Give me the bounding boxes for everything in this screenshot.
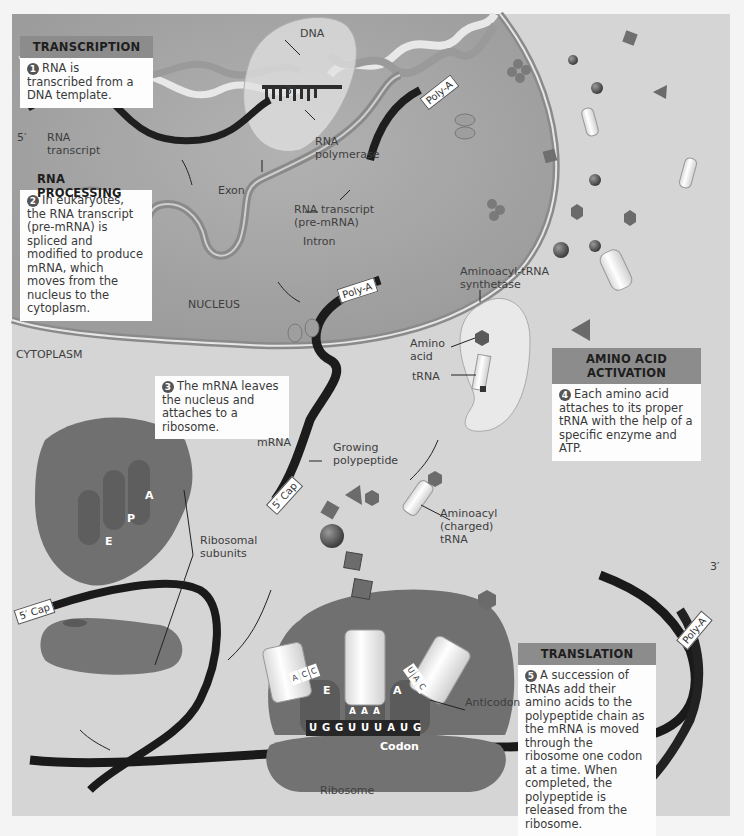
step-1-title: TRANSCRIPTION — [20, 36, 153, 58]
large-ribosomal-subunit — [35, 418, 192, 586]
five-prime-label: 5′ — [17, 131, 27, 144]
site-a-label-subunit: A — [145, 489, 154, 502]
mrna-base: G — [333, 721, 345, 734]
mrna-base: G — [320, 721, 332, 734]
three-prime-top-label: 3′ — [285, 84, 295, 97]
mrna-sequence: U G G U U U A U G — [307, 721, 423, 734]
aminoacyl-charged-trna-label: Aminoacyl (charged) tRNA — [440, 507, 497, 546]
mrna-base: U — [372, 721, 384, 734]
site-e-label-ribosome: E — [323, 684, 331, 697]
amino-acid-label: Amino acid — [410, 337, 445, 363]
step-5-text: A succession of tRNAs add their amino ac… — [525, 668, 645, 831]
step-number-badge: 4 — [559, 389, 571, 401]
step-4-amino-acid-activation: AMINO ACID ACTIVATION 4Each amino acid a… — [552, 348, 701, 461]
step-2-rna-processing: RNA PROCESSING 2In eukaryotes, the RNA t… — [20, 190, 152, 321]
trna-label: tRNA — [412, 370, 440, 383]
site-e-label-subunit: E — [105, 535, 113, 548]
step-5-translation: TRANSLATION 5A succession of tRNAs add t… — [518, 643, 656, 836]
mrna-label: mRNA — [257, 436, 291, 449]
dna-label: DNA — [300, 27, 324, 40]
nucleus-label: NUCLEUS — [188, 298, 240, 311]
exon-label: Exon — [218, 184, 245, 197]
site-p-label-subunit: P — [127, 512, 135, 525]
anticodon-label: Anticodon — [465, 696, 520, 709]
anticodon-base: A — [347, 705, 358, 718]
step-4-text: Each amino acid attaches to its proper t… — [559, 387, 693, 455]
free-trna — [581, 107, 698, 293]
aminoacyl-trna-synthetase — [460, 298, 530, 431]
cytoplasm-label: CYTOPLASM — [16, 348, 83, 361]
anticodon-base: A — [371, 705, 382, 718]
ribosomal-subunits-label: Ribosomal subunits — [200, 534, 257, 560]
mrna-base: U — [359, 721, 371, 734]
step-1-text: RNA is transcribed from a DNA template. — [27, 61, 134, 102]
ribosome-label: Ribosome — [320, 784, 374, 797]
step-3-mrna-export: 3The mRNA leaves the nucleus and attache… — [155, 376, 289, 439]
step-1-transcription: TRANSCRIPTION 1RNA is transcribed from a… — [20, 36, 153, 108]
growing-polypeptide-label: Growing polypeptide — [333, 441, 398, 467]
step-number-badge: 5 — [525, 670, 537, 682]
aminoacyl-trna-synthetase-label: Aminoacyl-tRNA synthetase — [460, 265, 549, 291]
rna-transcript-label: RNA transcript — [47, 131, 100, 157]
anticodon-p-site: A A A — [347, 705, 382, 718]
step-5-title: TRANSLATION — [518, 643, 656, 665]
step-2-text: In eukaryotes, the RNA transcript (pre-m… — [27, 193, 143, 315]
mrna-base: A — [385, 721, 397, 734]
three-prime-right-label: 3′ — [710, 560, 720, 573]
mrna-base: U — [346, 721, 358, 734]
mrna-base: U — [398, 721, 410, 734]
step-2-title: RNA PROCESSING — [37, 168, 152, 202]
intron-label: Intron — [303, 235, 336, 248]
anticodon-base: A — [359, 705, 370, 718]
step-number-badge: 3 — [162, 381, 174, 393]
step-4-title: AMINO ACID ACTIVATION — [552, 348, 701, 384]
rna-transcript-pre-mrna-label: RNA transcript (pre-mRNA) — [294, 203, 374, 229]
charged-trna — [401, 471, 442, 517]
site-a-label-ribosome: A — [393, 684, 402, 697]
step-3-text: The mRNA leaves the nucleus and attaches… — [162, 379, 279, 434]
mrna-base: G — [411, 721, 423, 734]
codon-label: Codon — [380, 740, 419, 753]
rna-polymerase-label: RNA polymerase — [315, 135, 380, 161]
step-number-badge: 1 — [27, 63, 39, 75]
mrna-base: U — [307, 721, 319, 734]
free-amino-acids — [543, 30, 667, 341]
